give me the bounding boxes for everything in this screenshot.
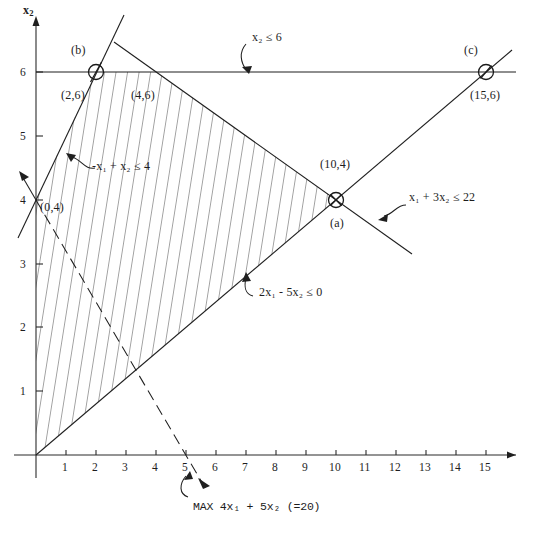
x-axis-arrow-icon (507, 452, 516, 459)
y-tick-label-4: 4 (20, 194, 26, 206)
feasible-region (36, 72, 336, 455)
y-tick-label-3: 3 (20, 258, 26, 270)
vertex-label-10-4: (10,4) (320, 157, 350, 172)
vertex-tag-a: (a) (330, 216, 344, 231)
vertex-label-2-6: (2,6) (61, 88, 85, 103)
x-tick-label-13: 13 (419, 461, 431, 473)
feasible-region-fill (36, 72, 336, 455)
x-tick-label-6: 6 (212, 461, 218, 473)
leader-arrowhead-x1-plus-3x2 (378, 214, 388, 222)
objective-line-endpoint-arrow-icon (198, 478, 210, 489)
gradient-arrowhead-icon (19, 171, 29, 181)
x-tick-label-2: 2 (92, 461, 98, 473)
constraint-label-2x1-minus-5x2: 2x₁ - 5x₂ ≤ 0 (259, 285, 323, 300)
vertex-tag-c: (c) (464, 43, 478, 58)
constraint-label-x2-le-6: x₂ ≤ 6 (252, 30, 282, 45)
x-tick-label-10: 10 (329, 461, 341, 473)
x-tick-label-8: 8 (272, 461, 278, 473)
x-tick-label-7: 7 (242, 461, 248, 473)
plot-canvas (0, 0, 533, 537)
x-tick-label-9: 9 (302, 461, 308, 473)
objective-function-label: MAX 4x₁ + 5x₂ (=20) (193, 500, 320, 513)
y-tick-label-6: 6 (20, 66, 26, 78)
y-tick-label-5: 5 (20, 130, 26, 142)
y-tick-label-2: 2 (20, 321, 26, 333)
x-tick-label-12: 12 (389, 461, 401, 473)
vertex-label-15-6: (15,6) (470, 88, 500, 103)
vertex-tag-b: (b) (71, 43, 86, 58)
vertex-label-0-4: (0,4) (40, 200, 64, 215)
vertex-label-4-6: (4,6) (131, 88, 155, 103)
leader-arrowhead-x2-le-6 (242, 66, 252, 74)
constraint-label-neg-x1-plus-x2: -x₁ + x₂ ≤ 4 (92, 159, 150, 174)
x-tick-label-4: 4 (152, 461, 158, 473)
x-tick-label-11: 11 (359, 461, 370, 473)
x-tick-label-14: 14 (449, 461, 461, 473)
x-tick-label-1: 1 (62, 461, 68, 473)
x-tick-marks (66, 450, 486, 455)
x-tick-label-15: 15 (479, 461, 491, 473)
figure-root: x2 1 2 3 4 5 6 7 8 9 10 11 12 13 14 15 1… (0, 0, 533, 537)
leader-x1-plus-3x2 (384, 205, 406, 216)
x-tick-label-5: 5 (182, 461, 188, 473)
constraint-label-x1-plus-3x2: x₁ + 3x₂ ≤ 22 (409, 190, 475, 205)
x-tick-label-3: 3 (122, 461, 128, 473)
y-axis-label: x2 (23, 3, 34, 18)
y-tick-label-1: 1 (20, 385, 26, 397)
